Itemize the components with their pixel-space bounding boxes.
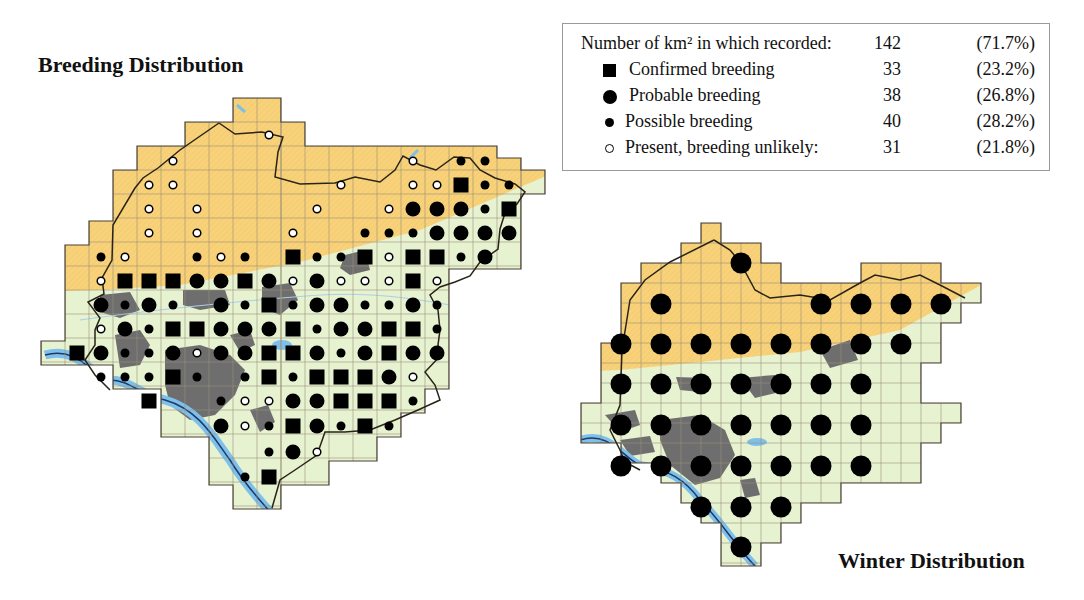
breeding-record-symbol [214,419,229,434]
breeding-record-symbol [286,322,301,337]
legend-row-possible: Possible breeding 40 (28.2%) [563,111,1049,133]
breeding-record-symbol [97,373,106,382]
legend-row-confirmed: Confirmed breeding 33 (23.2%) [563,59,1049,81]
breeding-record-symbol [310,419,325,434]
breeding-record-symbol [406,346,421,361]
breeding-record-symbol [145,229,153,237]
breeding-record-symbol [337,253,346,262]
breeding-record-symbol [241,373,250,382]
legend-count: 33 [841,59,901,80]
breeding-record-symbol [193,349,201,357]
breeding-record-symbol [406,250,421,265]
breeding-record-symbol [169,301,178,310]
breeding-record-symbol [358,250,373,265]
breeding-record-symbol [241,301,250,310]
winter-record-dot [851,334,872,355]
small-dot-icon [605,118,614,127]
legend-percent: (23.2%) [935,59,1035,80]
winter-record-dot [611,374,632,395]
breeding-record-symbol [382,394,397,409]
legend-percent: (21.8%) [935,137,1035,158]
breeding-record-symbol [385,229,394,238]
breeding-record-symbol [502,202,517,217]
breeding-record-symbol [313,325,322,334]
breeding-record-symbol [265,131,273,139]
breeding-record-symbol [190,274,205,289]
breeding-record-symbol [454,202,469,217]
legend-total-label: Number of km² in which recorded: [581,33,832,54]
winter-record-dot [611,334,632,355]
winter-record-dot [851,456,872,477]
legend-count: 31 [841,137,901,158]
winter-record-dot [851,415,872,436]
winter-record-dot [851,294,872,315]
winter-record-dot [651,456,672,477]
legend-label: Present, breeding unlikely: [625,137,818,158]
breeding-record-symbol [334,298,349,313]
breeding-record-symbol [166,346,181,361]
breeding-record-symbol [121,301,130,310]
legend-count: 38 [841,85,901,106]
breeding-record-symbol [457,253,466,262]
breeding-record-symbol [409,157,417,165]
breeding-record-symbol [241,397,249,405]
breeding-record-symbol [241,473,250,482]
breeding-record-symbol [406,298,421,313]
legend-row-present: Present, breeding unlikely: 31 (21.8%) [563,137,1049,159]
breeding-record-symbol [382,346,397,361]
breeding-record-symbol [334,322,349,337]
breeding-record-symbol [142,298,157,313]
winter-record-dot [731,415,752,436]
breeding-record-symbol [193,229,201,237]
breeding-record-symbol [334,370,349,385]
breeding-record-symbol [457,157,466,166]
winter-record-dot [611,456,632,477]
breeding-record-symbol [310,274,325,289]
breeding-record-symbol [142,274,157,289]
breeding-record-symbol [145,349,154,358]
winter-record-dot [771,415,792,436]
winter-record-dot [811,374,832,395]
breeding-record-symbol [385,205,393,213]
legend: Number of km² in which recorded: 142 (71… [562,23,1050,171]
breeding-record-symbol [358,394,373,409]
breeding-record-symbol [289,301,298,310]
breeding-record-symbol [409,181,417,189]
breeding-record-symbol [433,325,442,334]
breeding-record-symbol [385,253,393,261]
breeding-record-symbol [121,253,129,261]
breeding-record-symbol [97,253,106,262]
winter-record-dot [891,334,912,355]
large-dot-icon [603,90,617,104]
winter-record-dot [651,294,672,315]
winter-record-dot [691,415,712,436]
breeding-record-symbol [190,322,205,337]
breeding-record-symbol [313,253,322,262]
breeding-record-symbol [262,370,277,385]
breeding-record-symbol [193,253,202,262]
breeding-record-symbol [169,157,177,165]
breeding-record-symbol [193,205,201,213]
breeding-record-symbol [262,322,277,337]
breeding-record-symbol [289,373,298,382]
breeding-record-symbol [241,253,250,262]
open-circle-icon [605,144,614,153]
breeding-record-symbol [121,373,130,382]
winter-record-dot [811,456,832,477]
winter-record-dot [611,415,632,436]
breeding-record-symbol [385,301,394,310]
breeding-record-symbol [145,325,154,334]
breeding-record-symbol [166,370,181,385]
breeding-record-symbol [289,277,297,285]
winter-record-dot [771,497,792,518]
breeding-record-symbol [361,277,369,285]
legend-total-count: 142 [841,33,901,54]
winter-record-dot [891,294,912,315]
breeding-record-symbol [217,397,226,406]
breeding-record-symbol [358,346,373,361]
breeding-record-symbol [262,470,277,485]
breeding-record-symbol [310,370,325,385]
winter-record-dot [691,497,712,518]
breeding-record-symbol [121,349,130,358]
breeding-record-symbol [286,419,301,434]
